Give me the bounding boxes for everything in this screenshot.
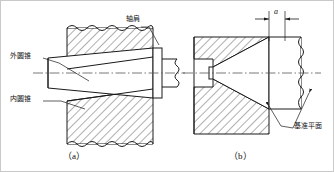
engineering-drawing-svg <box>1 1 334 172</box>
view-a-geometry <box>33 26 185 147</box>
label-outer-cone: 外圆锥 <box>10 53 31 60</box>
figure-container: 外圆锥 内圆锥 轴肩 a 基准平面 （a） （b） <box>0 0 334 172</box>
label-dimension-a: a <box>274 7 278 16</box>
caption-view-a: （a） <box>63 149 85 162</box>
label-shaft-shoulder: 轴肩 <box>126 16 140 23</box>
label-inner-cone: 内圆锥 <box>10 96 31 103</box>
label-datum-plane: 基准平面 <box>294 123 322 130</box>
view-b-geometry <box>183 11 321 134</box>
caption-view-b: （b） <box>229 149 252 162</box>
